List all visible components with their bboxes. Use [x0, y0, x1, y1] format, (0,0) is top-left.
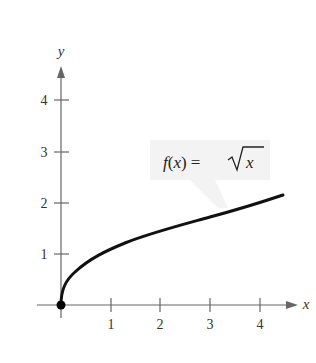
- x-tick-label-4: 4: [257, 317, 264, 332]
- x-axis: [37, 301, 298, 309]
- y-axis: [57, 66, 65, 318]
- x-axis-label: x: [302, 296, 310, 312]
- callout-pointer: [190, 180, 228, 208]
- function-label: f(x) =: [163, 153, 200, 172]
- x-tick-label-1: 1: [108, 317, 115, 332]
- x-axis-arrow-icon: [286, 301, 298, 309]
- x-tick-label-2: 2: [157, 317, 164, 332]
- x-tick-label-3: 3: [207, 317, 214, 332]
- y-tick-label-3: 3: [41, 145, 48, 160]
- y-tick-label-2: 2: [41, 196, 48, 211]
- y-axis-label: y: [56, 43, 65, 59]
- y-axis-arrow-icon: [57, 66, 65, 78]
- chart: 1 2 3 4 1 2 3 4 y x f(x) = x: [0, 0, 316, 363]
- y-tick-label-1: 1: [41, 247, 48, 262]
- y-tick-label-4: 4: [41, 93, 48, 108]
- sqrt-curve-visible: [61, 195, 283, 305]
- origin-point: [57, 301, 66, 310]
- function-radicand: x: [245, 153, 254, 172]
